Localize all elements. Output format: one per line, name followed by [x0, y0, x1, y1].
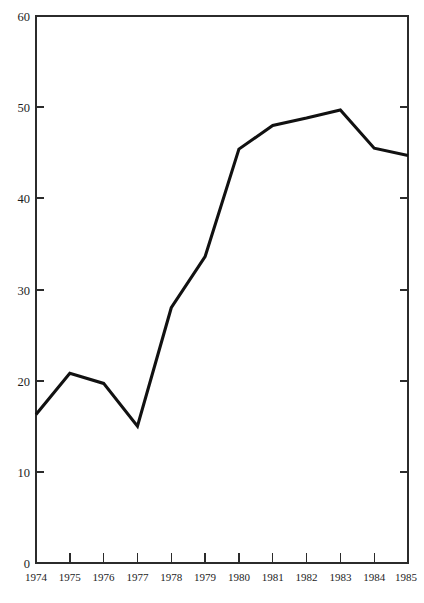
x-tick-label-1974: 1974 — [25, 571, 48, 583]
plot-area: 0 10 20 30 40 50 60 1974 1975 1976 1977 … — [0, 0, 424, 603]
x-axis-ticks — [70, 553, 374, 563]
x-tick-label-1983: 1983 — [329, 571, 352, 583]
x-tick-label-1985: 1985 — [395, 571, 418, 583]
x-tick-label-1977: 1977 — [127, 571, 150, 583]
axis-frame — [36, 16, 408, 563]
y-axis-ticks-right — [400, 107, 408, 563]
axis-box — [36, 16, 408, 563]
data-series-line — [36, 110, 408, 426]
y-axis-ticks — [36, 107, 44, 563]
y-tick-label-30: 30 — [18, 284, 31, 298]
x-tick-label-1981: 1981 — [262, 571, 284, 583]
x-tick-label-1978: 1978 — [160, 571, 183, 583]
x-tick-label-1980: 1980 — [228, 571, 251, 583]
x-tick-labels: 1974 1975 1976 1977 1978 1979 1980 1981 … — [25, 571, 418, 583]
x-tick-label-1982: 1982 — [296, 571, 318, 583]
y-tick-label-40: 40 — [18, 192, 31, 206]
y-tick-label-20: 20 — [18, 375, 31, 389]
y-tick-label-50: 50 — [18, 101, 31, 115]
x-tick-label-1984: 1984 — [363, 571, 386, 583]
x-tick-label-1975: 1975 — [59, 571, 82, 583]
y-tick-label-10: 10 — [18, 466, 31, 480]
line-chart: 0 10 20 30 40 50 60 1974 1975 1976 1977 … — [0, 0, 424, 603]
x-tick-label-1976: 1976 — [93, 571, 116, 583]
y-tick-label-0: 0 — [24, 557, 30, 571]
y-tick-label-60: 60 — [18, 10, 31, 24]
x-tick-label-1979: 1979 — [194, 571, 217, 583]
y-tick-labels: 0 10 20 30 40 50 60 — [18, 10, 31, 571]
